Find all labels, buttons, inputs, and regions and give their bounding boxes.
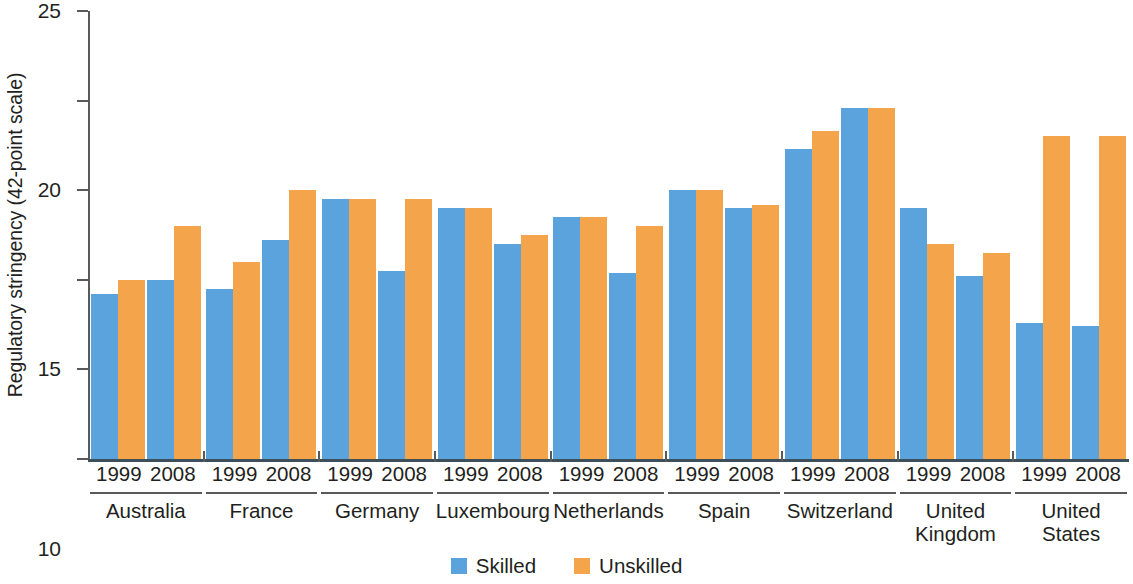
x-label-group: 19992008United Kingdom [898, 462, 1014, 546]
x-country-label: France [204, 500, 320, 523]
bar-unskilled [405, 199, 432, 459]
bar-pair-1999 [900, 11, 954, 459]
bar-pair-2008 [378, 11, 432, 459]
bar-unskilled [289, 190, 316, 459]
x-year-label-2008: 2008 [608, 462, 662, 486]
bar-pair-2008 [494, 11, 548, 459]
bar-unskilled [1099, 136, 1126, 459]
bar-pair-2008 [262, 11, 316, 459]
x-year-label-1999: 1999 [207, 462, 261, 486]
bar-pair-1999 [91, 11, 145, 459]
bar-pair-1999 [438, 11, 492, 459]
y-tick-label-20: 20 [38, 179, 61, 200]
bar-unskilled [1043, 136, 1070, 459]
bar-unskilled [174, 226, 201, 459]
x-group-underline [206, 492, 318, 494]
x-group-underline [437, 492, 549, 494]
x-country-label: Switzerland [782, 500, 898, 523]
bar-skilled [725, 208, 752, 459]
bar-pair-1999 [1016, 11, 1070, 459]
bar-skilled [609, 273, 636, 459]
y-tick-0: 0 [77, 458, 88, 460]
x-group-separator [665, 451, 667, 462]
bar-pair-2008 [147, 11, 201, 459]
bar-pair-1999 [669, 11, 723, 459]
bar-group-france [204, 11, 320, 459]
bar-skilled [322, 199, 349, 459]
x-year-label-2008: 2008 [493, 462, 547, 486]
bar-skilled [956, 276, 983, 459]
bar-skilled [900, 208, 927, 459]
bar-group-spain [666, 11, 782, 459]
x-year-labels: 19992008 [319, 462, 435, 492]
y-axis-title: Regulatory stringency (42-point scale) [0, 0, 30, 470]
bar-unskilled [696, 190, 723, 459]
bar-skilled [91, 294, 118, 459]
x-group-underline [90, 492, 202, 494]
x-group-underline [553, 492, 665, 494]
bar-skilled [494, 244, 521, 459]
x-country-label: United Kingdom [898, 500, 1014, 546]
x-year-labels: 19992008 [551, 462, 667, 492]
x-group-separator [550, 451, 552, 462]
x-year-label-2008: 2008 [146, 462, 200, 486]
x-country-label: United States [1013, 500, 1129, 546]
bar-pair-2008 [725, 11, 779, 459]
bar-skilled [669, 190, 696, 459]
x-group-separator [318, 451, 320, 462]
x-group-underline [1015, 492, 1127, 494]
bar-pair-2008 [1072, 11, 1126, 459]
y-tick-25: 25 [77, 10, 88, 12]
x-label-group: 19992008Australia [88, 462, 204, 523]
bar-skilled [378, 271, 405, 459]
bar-unskilled [868, 108, 895, 459]
x-group-separator [1012, 451, 1014, 462]
x-year-labels: 19992008 [204, 462, 320, 492]
x-year-labels: 19992008 [782, 462, 898, 492]
bar-unskilled [233, 262, 260, 459]
y-tick-5: 5 [77, 368, 88, 370]
bar-group-united-kingdom [898, 11, 1014, 459]
x-year-label-1999: 1999 [1017, 462, 1071, 486]
x-label-group: 19992008Netherlands [551, 462, 667, 523]
x-year-labels: 19992008 [88, 462, 204, 492]
x-year-label-1999: 1999 [439, 462, 493, 486]
x-year-label-2008: 2008 [955, 462, 1009, 486]
bar-unskilled [118, 280, 145, 459]
x-group-separator [781, 451, 783, 462]
y-tick-label-25: 25 [38, 0, 61, 21]
legend-label: Skilled [476, 556, 536, 577]
bar-unskilled [465, 208, 492, 459]
x-group-separator [203, 451, 205, 462]
x-axis-labels: 19992008Australia19992008France19992008G… [88, 462, 1129, 552]
x-year-label-2008: 2008 [1071, 462, 1125, 486]
legend-item: Skilled [451, 556, 536, 577]
x-country-label: Australia [88, 500, 204, 523]
x-year-label-1999: 1999 [786, 462, 840, 486]
bar-pair-1999 [206, 11, 260, 459]
y-tick-label-10: 10 [38, 537, 61, 558]
bar-skilled [1072, 326, 1099, 459]
y-tick-20: 20 [77, 100, 88, 102]
x-label-group: 19992008United States [1013, 462, 1129, 546]
skilled-swatch [451, 558, 467, 574]
x-label-group: 19992008France [204, 462, 320, 523]
bar-unskilled [580, 217, 607, 459]
x-year-labels: 19992008 [435, 462, 551, 492]
chart-legend: SkilledUnskilled [0, 556, 1133, 577]
plot-area: 2520151050 [88, 11, 1129, 459]
bar-unskilled [636, 226, 663, 459]
x-year-labels: 19992008 [1013, 462, 1129, 492]
bar-skilled [147, 280, 174, 459]
bar-group-united-states [1013, 11, 1129, 459]
bar-group-switzerland [782, 11, 898, 459]
legend-item: Unskilled [574, 556, 682, 577]
bar-pair-1999 [553, 11, 607, 459]
x-year-label-1999: 1999 [901, 462, 955, 486]
bar-unskilled [983, 253, 1010, 459]
x-label-group: 19992008Luxembourg [435, 462, 551, 523]
x-group-underline [321, 492, 433, 494]
bar-skilled [785, 149, 812, 459]
bar-pair-2008 [609, 11, 663, 459]
bar-group-australia [88, 11, 204, 459]
